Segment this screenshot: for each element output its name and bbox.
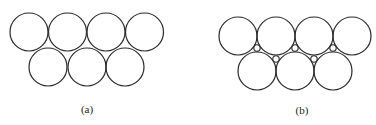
large-circle — [314, 52, 352, 90]
large-circle — [10, 13, 48, 51]
large-circle — [126, 13, 164, 51]
interstitial-circle — [292, 45, 298, 51]
circle-packing-diagram — [0, 0, 376, 125]
large-circle — [238, 52, 276, 90]
large-circle — [68, 48, 106, 86]
large-circle — [29, 48, 67, 86]
interstitial-circle — [311, 56, 317, 62]
large-circle — [219, 17, 257, 55]
large-circle — [49, 13, 87, 51]
panel-b-caption: (b) — [296, 104, 309, 116]
interstitial-circle — [330, 45, 336, 51]
large-circle — [333, 17, 371, 55]
large-circle — [106, 48, 144, 86]
interstitial-circle — [254, 45, 260, 51]
large-circle — [257, 17, 295, 55]
large-circle — [87, 13, 125, 51]
panel-a-caption: (a) — [81, 103, 93, 115]
interstitial-circle — [273, 56, 279, 62]
large-circle — [276, 52, 314, 90]
large-circle — [295, 17, 333, 55]
panel-b-packing-with-interstitial-circles — [219, 17, 371, 90]
panel-a-loose-packing — [10, 13, 164, 86]
